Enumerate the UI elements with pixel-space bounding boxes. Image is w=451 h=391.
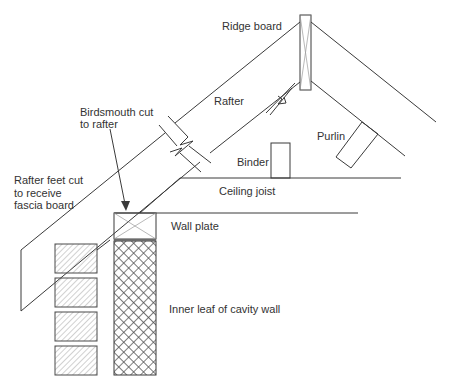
label-ceiling-joist: Ceiling joist: [219, 185, 275, 197]
rafter-joint-symbol: [266, 83, 295, 115]
label-rafter-feet-3: fascia board: [14, 199, 74, 211]
label-rafter-feet-2: to receive: [14, 187, 62, 199]
wall-plate: [114, 213, 156, 240]
outer-leaf-bricks: [55, 240, 110, 375]
purlin: [336, 122, 378, 168]
label-ridge-board: Ridge board: [222, 20, 282, 32]
binder: [271, 143, 290, 178]
inner-leaf-wall: [114, 241, 156, 375]
label-wall-plate: Wall plate: [171, 220, 219, 232]
rafter-break-symbol: [159, 116, 211, 172]
label-rafter: Rafter: [214, 95, 244, 107]
label-purlin: Purlin: [317, 130, 345, 142]
label-rafter-feet-1: Rafter feet cut: [14, 174, 83, 186]
ridge-board: [300, 15, 311, 90]
roof-section-diagram: Ridge board Rafter Birdsmouth cut to raf…: [0, 0, 451, 391]
label-binder: Binder: [237, 156, 269, 168]
label-birdsmouth-1: Birdsmouth cut: [80, 106, 153, 118]
label-birdsmouth-2: to rafter: [80, 118, 118, 130]
label-inner-leaf: Inner leaf of cavity wall: [169, 303, 280, 315]
